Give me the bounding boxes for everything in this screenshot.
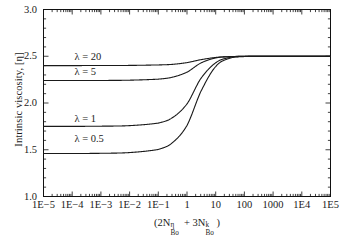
- y-tick-label: 1.5: [3, 145, 37, 155]
- curve-label-20: λ = 20: [74, 51, 101, 62]
- curve-label-0.5: λ = 0.5: [74, 133, 103, 144]
- y-tick-label: 2.5: [3, 51, 37, 61]
- curve-label-5: λ = 5: [74, 66, 96, 77]
- chart-figure: Intrinsic viscosity, [η] (2NηBo + 3NkBo)…: [0, 0, 344, 239]
- x-tick-label: 1E5: [309, 199, 344, 210]
- y-tick-label: 3.0: [3, 5, 37, 15]
- y-tick-label: 2.0: [3, 98, 37, 108]
- curve-label-1: λ = 1: [74, 113, 96, 124]
